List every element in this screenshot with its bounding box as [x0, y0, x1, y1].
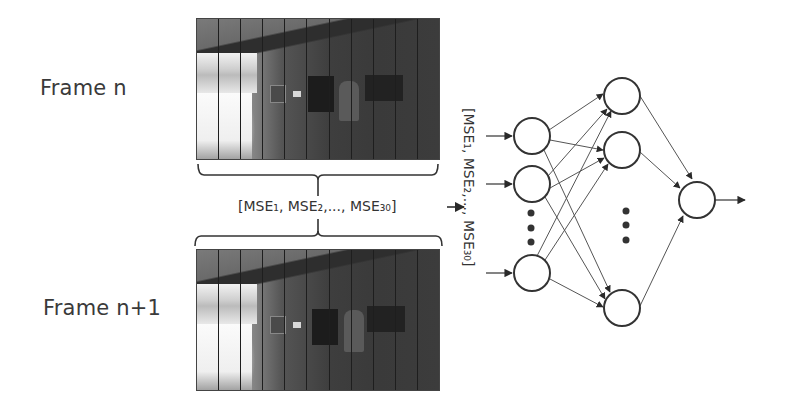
hidden-ellipsis-icon: [623, 208, 630, 244]
input-node: [514, 255, 550, 291]
input-node: [514, 166, 550, 202]
top-brace: [198, 164, 438, 196]
network-diagram: [0, 0, 785, 407]
input-layer: [514, 118, 550, 291]
input-ellipsis-icon: [528, 210, 535, 246]
hidden-node: [604, 290, 640, 326]
input-node: [514, 118, 550, 154]
bottom-brace: [195, 219, 442, 246]
input-arrows: [486, 136, 512, 273]
hidden-node: [604, 78, 640, 114]
hidden-node: [604, 132, 640, 168]
output-node: [679, 182, 715, 218]
